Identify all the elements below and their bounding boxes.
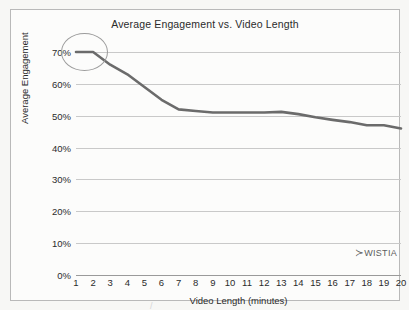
wistia-watermark-text: WISTIA — [364, 248, 397, 258]
wistia-watermark: ≻ WISTIA — [355, 248, 397, 258]
x-axis-tick-label: 4 — [125, 277, 130, 288]
x-axis-tick-label: 17 — [344, 277, 355, 288]
engagement-line-path — [76, 52, 401, 128]
x-axis-tick-label: 11 — [242, 277, 252, 288]
x-axis-tick-label: 12 — [259, 277, 270, 288]
x-axis-tick-label: 13 — [276, 277, 287, 288]
x-axis-tick-label: 3 — [108, 277, 113, 288]
x-axis-tick-label: 20 — [396, 277, 407, 288]
y-axis-tick-label: 40% — [52, 142, 71, 153]
y-axis-tick-label: 0% — [57, 270, 71, 281]
highlight-ellipse-annotation — [61, 33, 108, 71]
x-axis-tick-label: 15 — [310, 277, 321, 288]
x-axis-baseline — [76, 275, 401, 276]
y-axis-title-text: Average Engagement — [19, 108, 30, 124]
x-axis-tick-label: 14 — [293, 277, 304, 288]
x-axis-tick-label: 9 — [210, 277, 215, 288]
x-axis-tick-label: 7 — [176, 277, 181, 288]
x-axis-tick-label: 19 — [379, 277, 390, 288]
chart-frame: Average Engagement vs. Video Length Aver… — [10, 9, 400, 301]
x-axis-tick-labels: 1234567891011121314151617181920 — [76, 277, 401, 291]
plot-area: ≻ WISTIA — [76, 52, 401, 275]
y-axis-tick-label: 30% — [52, 174, 71, 185]
chart-title: Average Engagement vs. Video Length — [11, 18, 399, 30]
x-axis-tick-label: 18 — [361, 277, 372, 288]
x-axis-title: Video Length (minutes) — [76, 295, 401, 306]
engagement-line-series — [76, 52, 401, 275]
x-axis-tick-label: 8 — [193, 277, 198, 288]
x-axis-tick-label: 5 — [142, 277, 147, 288]
x-axis-tick-label: 2 — [90, 277, 95, 288]
chart-screenshot: Average Engagement vs. Video Length Aver… — [0, 0, 409, 310]
wistia-logo-icon: ≻ — [355, 248, 364, 258]
scan-artifact: / — [150, 302, 158, 310]
y-axis-tick-label: 10% — [52, 238, 71, 249]
y-axis-tick-labels: 0%10%20%30%40%50%60%70% — [35, 52, 71, 275]
x-axis-tick-label: 1 — [73, 277, 78, 288]
x-axis-tick-label: 16 — [327, 277, 338, 288]
x-axis-tick-label: 10 — [225, 277, 236, 288]
y-axis-tick-label: 50% — [52, 110, 71, 121]
y-axis-tick-label: 20% — [52, 206, 71, 217]
x-axis-tick-label: 6 — [159, 277, 164, 288]
y-axis-tick-label: 60% — [52, 78, 71, 89]
y-axis-title: Average Engagement — [19, 108, 35, 119]
